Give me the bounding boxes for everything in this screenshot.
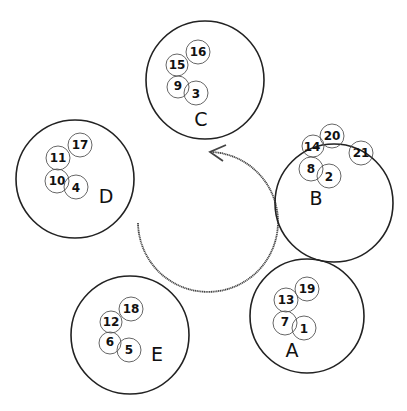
item-number: 16 [190, 45, 207, 59]
item-number: 3 [192, 87, 200, 101]
item-number: 14 [304, 140, 321, 154]
item-number: 19 [299, 282, 316, 296]
rotation-arc [138, 152, 278, 292]
group-e-circle [71, 276, 189, 394]
item-number: 17 [72, 138, 89, 152]
item-number: 9 [174, 79, 182, 93]
group-e: 18 12 6 5 E [71, 276, 189, 394]
item-number: 10 [49, 174, 66, 188]
group-label: B [309, 187, 322, 209]
item-number: 2 [325, 170, 333, 184]
item-number: 12 [103, 315, 120, 329]
arrowhead-icon [210, 145, 226, 161]
item-number: 11 [50, 151, 67, 165]
group-label: D [99, 185, 114, 207]
rotation-arrow [138, 145, 278, 292]
item-number: 8 [307, 162, 315, 176]
rotation-diagram: 16 15 9 3 C 20 14 21 8 2 B 17 11 10 4 D [0, 0, 407, 411]
item-number: 6 [106, 335, 114, 349]
item-number: 5 [125, 343, 133, 357]
item-number: 7 [281, 315, 289, 329]
group-b: 20 14 21 8 2 B [275, 124, 393, 262]
group-b-circle [275, 144, 393, 262]
item-number: 4 [72, 181, 80, 195]
item-number: 13 [278, 293, 295, 307]
group-c: 16 15 9 3 C [146, 21, 264, 139]
item-number: 18 [123, 302, 140, 316]
item-number: 20 [324, 129, 341, 143]
group-label: A [286, 339, 299, 361]
group-label: E [151, 343, 163, 365]
group-d: 17 11 10 4 D [16, 120, 134, 238]
item-number: 21 [353, 146, 370, 160]
item-number: 15 [169, 58, 186, 72]
group-a: 19 13 7 1 A [250, 259, 364, 373]
group-label: C [194, 108, 207, 130]
item-number: 1 [300, 322, 308, 336]
